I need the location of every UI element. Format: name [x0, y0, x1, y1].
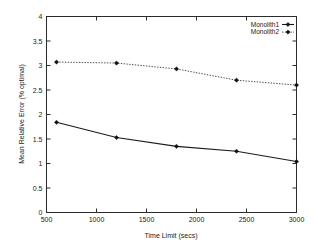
legend-label: Monolith2: [251, 28, 280, 35]
x-tick-label: 3000: [289, 216, 305, 223]
legend-label: Monolith1: [251, 21, 280, 28]
y-tick-label: 2.5: [33, 87, 43, 94]
y-tick-label: 0.5: [33, 185, 43, 192]
y-tick-label: 4: [39, 13, 43, 20]
x-tick-label: 2000: [189, 216, 205, 223]
x-tick-label: 2500: [239, 216, 255, 223]
chart-container: 00.511.522.533.54 5001000150020002500300…: [0, 0, 318, 246]
y-tick-label: 3: [39, 62, 43, 69]
y-tick-label: 2: [39, 111, 43, 118]
line-chart: 00.511.522.533.54 5001000150020002500300…: [0, 0, 318, 246]
y-tick-label: 1.5: [33, 136, 43, 143]
chart-background: [0, 0, 318, 246]
y-tick-label: 1: [39, 160, 43, 167]
x-tick-label: 500: [41, 216, 53, 223]
x-axis-title: Time Limit (secs): [144, 232, 197, 240]
x-tick-label: 1000: [89, 216, 105, 223]
y-tick-label: 3.5: [33, 38, 43, 45]
y-axis-title: Mean Relative Error (% optimal): [18, 64, 26, 164]
x-tick-label: 1500: [139, 216, 155, 223]
